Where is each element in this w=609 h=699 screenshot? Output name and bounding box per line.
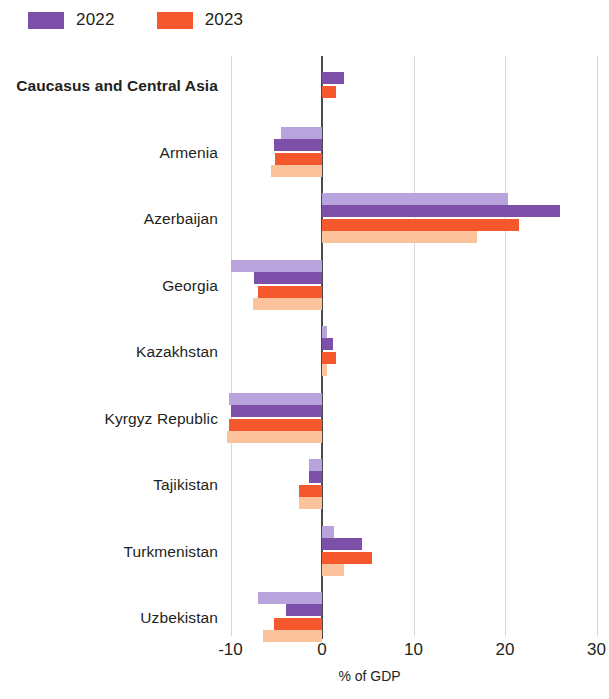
bar-2022 [322,72,344,84]
bar-2022-pale- [322,526,334,538]
chart-plot-area: Caucasus and Central AsiaArmeniaAzerbaij… [0,44,609,652]
bar-2023 [299,485,322,497]
category-label: Uzbekistan [0,610,218,626]
bar-2023-pale- [322,364,327,376]
bar-2022 [309,471,322,483]
bar-2022-pale- [309,459,322,471]
x-tick-label: 30 [587,640,606,660]
bar-2023 [229,419,322,431]
category-label: Georgia [0,278,218,294]
chart-row: Kyrgyz Republic [0,385,609,452]
x-axis-title: % of GDP [0,668,609,684]
x-tick-label: 10 [404,640,423,660]
bar-2022-pale- [322,193,508,205]
bar-2022 [274,139,322,151]
bar-2022-pale- [258,592,322,604]
bar-2022-pale- [231,260,323,272]
chart-row: Armenia [0,119,609,186]
bar-2023-pale- [299,497,322,509]
bar-2023-pale- [253,298,322,310]
bar-2022 [322,338,333,350]
bar-2023-pale- [322,231,477,243]
legend-swatch-2023 [157,12,193,29]
category-label: Tajikistan [0,477,218,493]
category-label: Turkmenistan [0,544,218,560]
bar-2022 [231,405,323,417]
legend-label-2022: 2022 [76,10,115,30]
bar-2023-pale- [227,431,322,443]
chart-row: Kazakhstan [0,318,609,385]
chart-row: Turkmenistan [0,518,609,585]
chart-row: Tajikistan [0,451,609,518]
bar-2022 [254,272,322,284]
bar-2022-pale- [229,393,322,405]
bar-2023 [322,219,519,231]
bar-2023 [322,352,336,364]
chart-row: Georgia [0,252,609,319]
bar-2023 [322,552,372,564]
bar-2022 [286,604,322,616]
x-axis-ticks: -100102030 [0,640,609,666]
bar-2023 [274,618,322,630]
chart-row: Caucasus and Central Asia [0,52,609,119]
x-tick-label: 0 [317,640,326,660]
x-tick-label: 20 [496,640,515,660]
bar-2023 [258,286,322,298]
bar-2023-pale- [271,165,322,177]
bar-2022 [322,205,560,217]
legend-swatch-2022 [28,12,64,29]
bar-2023-pale- [322,564,344,576]
legend-label-2023: 2023 [205,10,244,30]
bar-2022-pale- [281,127,322,139]
chart-legend: 2022 2023 [0,0,609,40]
legend-item-2023: 2023 [157,10,244,30]
category-label: Kyrgyz Republic [0,411,218,427]
bar-2022-pale- [322,326,327,338]
category-label: Caucasus and Central Asia [0,78,218,94]
bar-2023 [322,86,336,98]
bar-2023 [275,153,322,165]
category-label: Armenia [0,145,218,161]
x-tick-label: -10 [218,640,243,660]
bar-2022 [322,538,362,550]
legend-item-2022: 2022 [28,10,115,30]
category-label: Kazakhstan [0,344,218,360]
category-label: Azerbaijan [0,211,218,227]
chart-row: Azerbaijan [0,185,609,252]
